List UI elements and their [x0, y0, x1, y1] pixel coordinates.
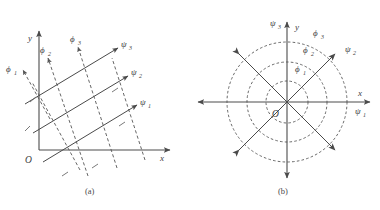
panel-b-psi2-symbol: ψ	[345, 44, 351, 54]
panel-b-phi2-symbol: ϕ	[303, 45, 308, 55]
panel-b-label-phi3: ϕ 3	[313, 28, 324, 40]
psi3-sub: 3	[128, 45, 132, 51]
panel-a-label-phi2: ϕ 2	[40, 45, 51, 57]
panel-a: y x O ϕ 1 ϕ 2 ϕ 3 ψ 1	[6, 31, 170, 196]
phi2-symbol: ϕ	[40, 45, 45, 55]
panel-a-ticks	[25, 88, 125, 176]
psi1-sub: 1	[148, 103, 151, 109]
panel-a-y-label: y	[27, 33, 32, 43]
phi2-sub: 2	[48, 51, 51, 57]
psi2-sub: 2	[139, 73, 142, 79]
phi1-symbol: ϕ	[6, 64, 11, 74]
panel-a-x-label: x	[159, 153, 164, 163]
panel-b-label-phi1: ϕ 1	[295, 64, 306, 76]
panel-b: y x O ψ 1 ψ 2 ψ 3 ϕ 1	[198, 18, 370, 196]
panel-a-dashed-line-phi1	[23, 70, 50, 119]
panel-a-solid-line-psi1	[43, 105, 137, 162]
panel-b-caption: (b)	[278, 186, 288, 196]
panel-a-label-psi3: ψ 3	[121, 39, 132, 51]
panel-b-phi1-symbol: ϕ	[295, 64, 300, 74]
panel-b-psi1-symbol: ψ	[355, 106, 361, 116]
psi2-symbol: ψ	[131, 67, 137, 77]
panel-a-solid-family	[25, 48, 137, 162]
panel-b-psi2-sub: 2	[353, 50, 356, 56]
panel-b-label-psi3: ψ 3	[270, 18, 281, 30]
panel-b-phi3-symbol: ϕ	[313, 28, 318, 38]
figure-svg: y x O ϕ 1 ϕ 2 ϕ 3 ψ 1	[0, 0, 380, 210]
phi3-sub: 3	[77, 40, 81, 46]
panel-b-label-psi2: ψ 2	[345, 44, 356, 56]
panel-b-labels: y x O ψ 1 ψ 2 ψ 3 ϕ 1	[270, 18, 366, 119]
panel-b-label-phi2: ϕ 2	[303, 45, 314, 57]
phi1-sub: 1	[14, 70, 17, 76]
panel-a-label-psi2: ψ 2	[131, 67, 142, 79]
psi1-symbol: ψ	[140, 97, 146, 107]
panel-b-x-label: x	[357, 88, 362, 98]
panel-a-label-phi1: ϕ 1	[6, 64, 17, 76]
phi3-symbol: ϕ	[70, 34, 75, 44]
panel-a-label-phi3: ϕ 3	[70, 34, 81, 46]
panel-b-phi1-sub: 1	[303, 70, 306, 76]
panel-b-y-label: y	[294, 22, 299, 32]
psi3-symbol: ψ	[121, 39, 127, 49]
panel-b-label-psi1: ψ 1	[355, 106, 366, 118]
panel-a-caption: (a)	[85, 186, 95, 196]
panel-a-solid-line-psi2	[33, 76, 128, 133]
panel-a-origin-label: O	[25, 155, 32, 165]
panel-a-dashed-line-phi2	[48, 58, 88, 176]
panel-a-labels: y x O ϕ 1 ϕ 2 ϕ 3 ψ 1	[6, 33, 164, 165]
panel-b-psi3-symbol: ψ	[270, 18, 276, 28]
panel-b-psi1-sub: 1	[363, 112, 366, 118]
figure-container: y x O ϕ 1 ϕ 2 ϕ 3 ψ 1	[0, 0, 380, 210]
panel-b-phi3-sub: 3	[320, 34, 324, 40]
panel-b-origin-label: O	[272, 109, 279, 119]
panel-a-label-psi1: ψ 1	[140, 97, 151, 109]
panel-b-psi3-sub: 3	[277, 24, 281, 30]
panel-b-phi2-sub: 2	[311, 51, 314, 57]
